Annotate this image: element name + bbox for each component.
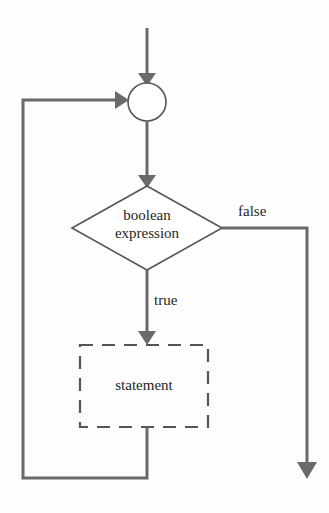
true-edge-label: true — [154, 292, 177, 309]
decision-label: boolean expression — [77, 207, 217, 242]
entry-arrow — [138, 28, 156, 86]
loop-junction-circle — [128, 83, 166, 121]
flowchart-canvas: boolean expression statement false true — [0, 0, 329, 513]
decision-label-line2: expression — [77, 225, 217, 243]
statement-label: statement — [80, 377, 208, 395]
flowchart-svg — [0, 0, 329, 513]
loop-back-edge — [23, 91, 147, 478]
decision-label-line1: boolean — [123, 207, 170, 223]
false-edge-label: false — [238, 203, 266, 220]
junction-to-decision-arrow — [138, 121, 156, 188]
false-branch-edge — [222, 228, 317, 479]
